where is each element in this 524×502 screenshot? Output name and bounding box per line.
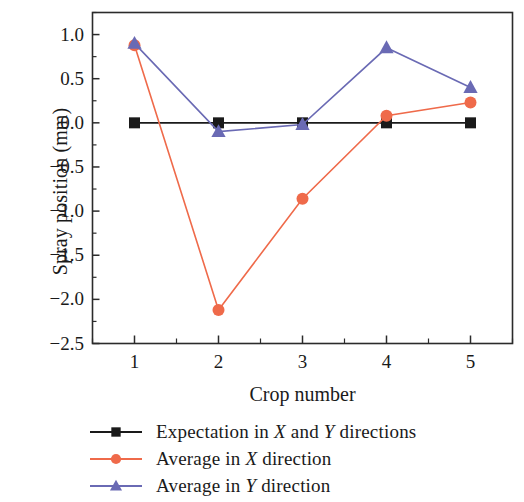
x-tick-label: 2: [199, 352, 239, 371]
x-tick-label: 1: [115, 352, 155, 371]
circle-marker: [111, 453, 121, 463]
x-tick-label: 5: [451, 352, 491, 371]
square-marker: [111, 427, 120, 436]
chart-legend: Expectation in X and Y directionsAverage…: [88, 418, 508, 499]
square-marker: [129, 117, 140, 128]
circle-marker: [381, 110, 393, 122]
circle-marker: [465, 97, 477, 109]
plot-frame: [93, 13, 513, 344]
x-axis-title: Crop number: [92, 383, 513, 406]
legend-key-triangle: [88, 475, 144, 497]
legend-key-circle: [88, 448, 144, 470]
legend-marker-icon: [105, 448, 127, 470]
legend-item: Expectation in X and Y directions: [88, 418, 508, 445]
legend-marker-icon: [105, 421, 127, 443]
legend-item: Average in Y direction: [88, 472, 508, 499]
x-tick-label: 4: [367, 352, 407, 371]
legend-item: Average in X direction: [88, 445, 508, 472]
spray-position-line-chart: Spray position (mm) 1.00.50.0−0.5−1.0−1.…: [0, 0, 524, 502]
circle-marker: [213, 304, 225, 316]
square-marker: [465, 117, 476, 128]
x-tick-label: 3: [283, 352, 323, 371]
legend-marker-icon: [105, 475, 127, 497]
legend-label: Average in X direction: [144, 448, 332, 470]
triangle-marker: [110, 479, 122, 490]
legend-key-square: [88, 421, 144, 443]
legend-label: Expectation in X and Y directions: [144, 421, 416, 443]
circle-marker: [297, 193, 309, 205]
legend-label: Average in Y direction: [144, 475, 330, 497]
